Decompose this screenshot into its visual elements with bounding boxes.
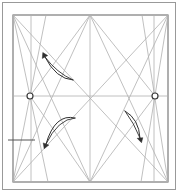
fold-arrow-head-down-right bbox=[137, 138, 143, 143]
screenshot-canvas bbox=[0, 0, 179, 193]
fold-arrow-curve-down-right bbox=[125, 111, 140, 138]
crease-line bbox=[30, 15, 90, 96]
origami-diagram bbox=[0, 0, 179, 193]
fold-arrow-curve-down-right bbox=[125, 111, 140, 138]
landmark-circle bbox=[152, 93, 158, 99]
landmark-circle bbox=[27, 93, 33, 99]
